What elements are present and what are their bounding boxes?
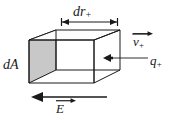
label-dr-subscript: +	[86, 10, 91, 20]
field-vector-group: E	[56, 102, 64, 115]
label-q-plus: q+	[150, 54, 162, 69]
label-E-field: E	[56, 102, 64, 115]
vector-arrow-icon	[56, 98, 76, 103]
label-q-text: q	[150, 53, 157, 68]
vector-arrow-icon	[133, 31, 153, 36]
physics-figure: dr+ dA v + q+ E	[0, 0, 169, 123]
label-dA: dA	[3, 58, 19, 72]
label-v-plus: v +	[133, 35, 144, 50]
label-dA-text: dA	[3, 57, 19, 72]
charge-marker-arrow	[103, 54, 113, 62]
label-dr-text: dr	[73, 4, 85, 19]
label-q-subscript: +	[157, 59, 162, 69]
velocity-vector-group: v	[133, 35, 139, 48]
label-v-subscript: +	[139, 40, 144, 50]
label-dr-plus: dr+	[73, 5, 91, 21]
